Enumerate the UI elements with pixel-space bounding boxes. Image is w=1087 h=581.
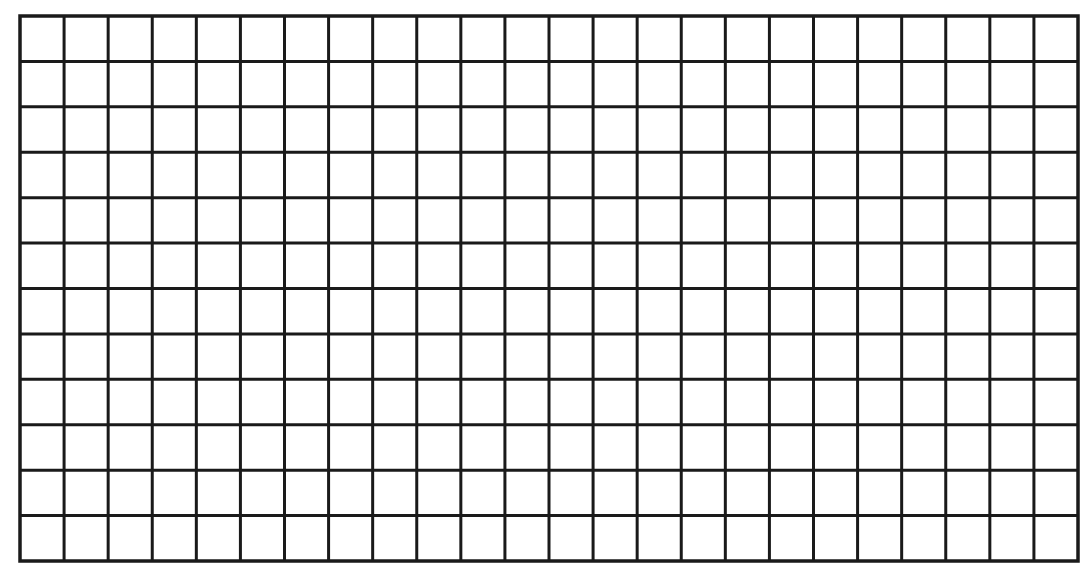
grid-lines <box>0 0 1087 581</box>
grid-figure: blank grid <box>0 0 1087 581</box>
